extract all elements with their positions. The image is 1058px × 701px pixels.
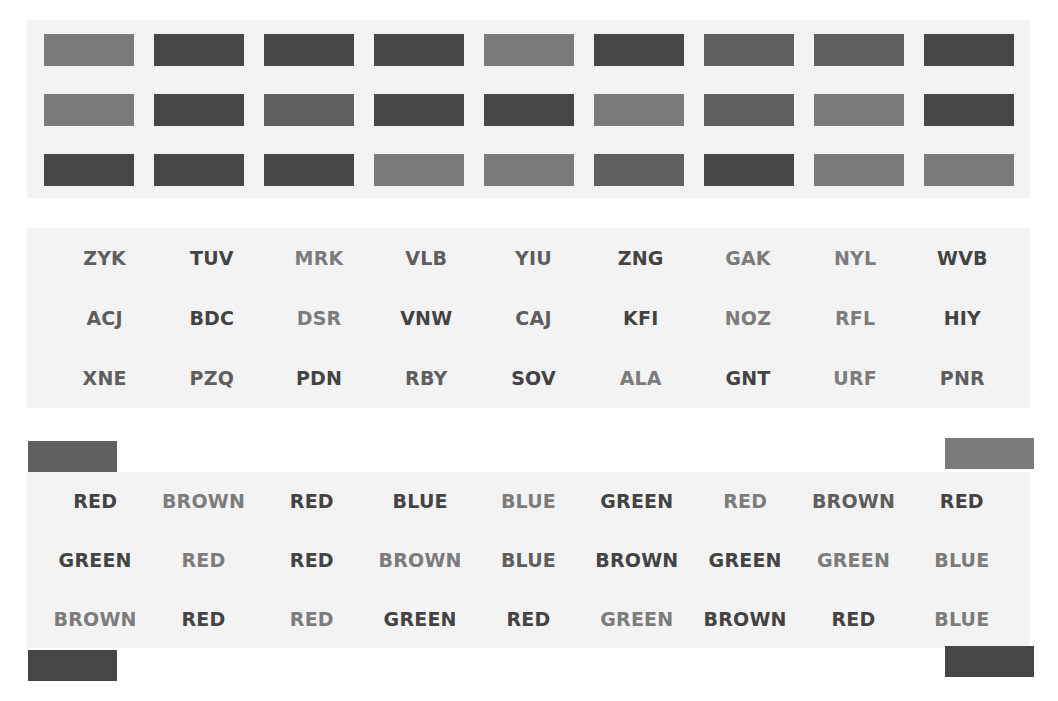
letter-code: VNW xyxy=(400,307,452,329)
letter-code: URF xyxy=(833,367,877,389)
letter-code: YIU xyxy=(515,247,552,269)
color-word: RED xyxy=(73,490,117,512)
letter-code: RBY xyxy=(405,367,447,389)
marker-bottom-left xyxy=(28,650,117,681)
color-word: BROWN xyxy=(379,549,462,571)
color-word: GREEN xyxy=(59,549,132,571)
letter-codes-grid: ZYKTUVMRKVLBYIUZNGGAKNYLWVBACJBDCDSRVNWC… xyxy=(27,228,1030,408)
color-bar xyxy=(484,34,574,66)
letter-code: BDC xyxy=(189,307,234,329)
letter-code: NOZ xyxy=(725,307,771,329)
color-bar xyxy=(264,154,354,186)
color-bar xyxy=(924,34,1014,66)
color-word: BROWN xyxy=(595,549,678,571)
color-word: BROWN xyxy=(162,490,245,512)
color-word: RED xyxy=(290,490,334,512)
color-bar xyxy=(704,154,794,186)
letter-code: GAK xyxy=(725,247,771,269)
color-bar xyxy=(374,34,464,66)
color-bar xyxy=(44,94,134,126)
color-word: GREEN xyxy=(709,549,782,571)
color-bar xyxy=(154,94,244,126)
color-bar xyxy=(154,154,244,186)
color-bar xyxy=(814,154,904,186)
letter-code: KFI xyxy=(623,307,658,329)
color-word: RED xyxy=(182,549,226,571)
letter-code: PNR xyxy=(940,367,985,389)
color-bar xyxy=(374,154,464,186)
color-word: BROWN xyxy=(812,490,895,512)
color-word: BLUE xyxy=(393,490,448,512)
letter-code: MRK xyxy=(295,247,344,269)
color-word: GREEN xyxy=(817,549,890,571)
color-bar xyxy=(484,94,574,126)
color-bar xyxy=(154,34,244,66)
letter-code: RFL xyxy=(835,307,875,329)
color-bar xyxy=(44,154,134,186)
marker-bottom-right xyxy=(945,646,1034,677)
color-word: RED xyxy=(723,490,767,512)
color-bars-grid xyxy=(27,20,1030,198)
letter-code: TUV xyxy=(190,247,234,269)
color-bar xyxy=(814,34,904,66)
color-word: BROWN xyxy=(54,608,137,630)
color-words-panel: REDBROWNREDBLUEBLUEGREENREDBROWNREDGREEN… xyxy=(27,472,1030,648)
color-bars-panel xyxy=(27,20,1030,198)
letter-code: NYL xyxy=(834,247,876,269)
color-word: BLUE xyxy=(934,549,989,571)
color-word: RED xyxy=(182,608,226,630)
color-bar xyxy=(594,34,684,66)
letter-code: CAJ xyxy=(515,307,551,329)
letter-code: PZQ xyxy=(190,367,234,389)
marker-top-right xyxy=(945,438,1034,469)
color-word: BLUE xyxy=(501,490,556,512)
color-word: BLUE xyxy=(501,549,556,571)
color-word: GREEN xyxy=(384,608,457,630)
color-bar xyxy=(924,154,1014,186)
letter-code: XNE xyxy=(83,367,127,389)
letter-code: SOV xyxy=(511,367,556,389)
marker-top-left xyxy=(28,441,117,472)
color-bar xyxy=(594,94,684,126)
letter-codes-panel: ZYKTUVMRKVLBYIUZNGGAKNYLWVBACJBDCDSRVNWC… xyxy=(27,228,1030,408)
color-word: RED xyxy=(507,608,551,630)
color-bar xyxy=(704,34,794,66)
color-bar xyxy=(704,94,794,126)
letter-code: HIY xyxy=(944,307,981,329)
color-bar xyxy=(594,154,684,186)
color-bar xyxy=(814,94,904,126)
color-word: RED xyxy=(290,549,334,571)
color-word: GREEN xyxy=(600,490,673,512)
color-bar xyxy=(264,94,354,126)
color-word: BLUE xyxy=(934,608,989,630)
letter-code: DSR xyxy=(297,307,342,329)
letter-code: ALA xyxy=(620,367,662,389)
color-bar xyxy=(484,154,574,186)
letter-code: ACJ xyxy=(86,307,122,329)
color-word: GREEN xyxy=(600,608,673,630)
letter-code: WVB xyxy=(937,247,988,269)
color-word: RED xyxy=(832,608,876,630)
letter-code: PDN xyxy=(296,367,342,389)
letter-code: GNT xyxy=(725,367,770,389)
letter-code: ZYK xyxy=(83,247,126,269)
color-bar xyxy=(44,34,134,66)
letter-code: ZNG xyxy=(618,247,664,269)
color-word: BROWN xyxy=(704,608,787,630)
color-bar xyxy=(264,34,354,66)
color-word: RED xyxy=(290,608,334,630)
color-words-grid: REDBROWNREDBLUEBLUEGREENREDBROWNREDGREEN… xyxy=(27,472,1030,648)
color-bar xyxy=(374,94,464,126)
color-word: RED xyxy=(940,490,984,512)
color-bar xyxy=(924,94,1014,126)
letter-code: VLB xyxy=(405,247,447,269)
